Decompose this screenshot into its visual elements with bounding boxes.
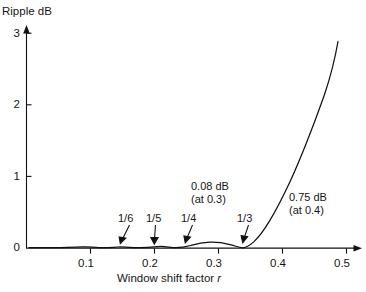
y-axis-ticks — [27, 33, 32, 176]
marker-label-1-5: 1/5 — [146, 213, 161, 224]
annotation-ripple-0-3-line1: 0.08 dB — [191, 180, 229, 193]
x-axis-title-variable: r — [217, 272, 221, 284]
ripple-chart-figure: Ripple dB 3 2 1 0 0.1 0.2 0.3 0.4 0.5 Wi… — [0, 0, 366, 292]
y-tick-label-0: 0 — [6, 242, 20, 254]
y-tick-label-3: 3 — [6, 28, 20, 40]
annotation-ripple-0-3: 0.08 dB (at 0.3) — [191, 180, 229, 206]
marker-label-1-3: 1/3 — [237, 213, 252, 224]
y-axis-title: Ripple dB — [2, 6, 52, 18]
x-tick-label-0-1: 0.1 — [78, 258, 94, 270]
x-tick-label-0-3: 0.3 — [206, 258, 222, 270]
x-axis-title-text: Window shift factor — [117, 272, 214, 284]
annotation-ripple-0-3-line2: (at 0.3) — [191, 193, 229, 206]
marker-label-1-4: 1/4 — [181, 213, 196, 224]
chart-canvas — [0, 0, 366, 292]
marker-label-1-6: 1/6 — [118, 213, 133, 224]
y-tick-label-1: 1 — [6, 171, 20, 183]
y-tick-label-2: 2 — [6, 99, 20, 111]
x-tick-label-0-4: 0.4 — [270, 258, 286, 270]
marker-arrows — [119, 225, 248, 244]
y-axis — [23, 25, 30, 248]
annotation-ripple-0-4: 0.75 dB (at 0.4) — [289, 191, 327, 217]
x-tick-label-0-2: 0.2 — [142, 258, 158, 270]
annotation-ripple-0-4-line1: 0.75 dB — [289, 191, 327, 204]
x-tick-label-0-5: 0.5 — [334, 258, 350, 270]
x-axis-title: Window shift factor r — [117, 273, 221, 285]
x-axis-ticks — [91, 248, 347, 253]
annotation-ripple-0-4-line2: (at 0.4) — [289, 204, 327, 217]
x-axis — [26, 245, 362, 252]
